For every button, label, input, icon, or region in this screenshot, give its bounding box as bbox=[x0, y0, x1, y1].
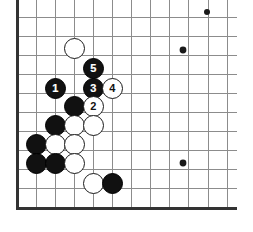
stone-white[interactable] bbox=[45, 134, 66, 155]
stone-white-move-2[interactable]: 2 bbox=[83, 96, 104, 117]
stone-white[interactable] bbox=[64, 38, 85, 59]
star-point bbox=[204, 9, 210, 15]
stone-black-move-1[interactable]: 1 bbox=[45, 78, 66, 99]
go-board-diagram: 51342 bbox=[0, 0, 253, 232]
stone-white[interactable] bbox=[83, 173, 104, 194]
stone-black[interactable] bbox=[45, 115, 66, 136]
stone-move-number: 3 bbox=[90, 82, 96, 93]
stone-white[interactable] bbox=[64, 115, 85, 136]
stone-black-move-5[interactable]: 5 bbox=[83, 58, 104, 79]
stone-black[interactable] bbox=[64, 96, 85, 117]
goban-grid bbox=[0, 0, 253, 232]
stone-black[interactable] bbox=[102, 173, 123, 194]
star-point bbox=[180, 47, 187, 54]
stone-black[interactable] bbox=[26, 153, 47, 174]
stone-move-number: 5 bbox=[90, 62, 96, 73]
stone-black[interactable] bbox=[45, 153, 66, 174]
stone-move-number: 1 bbox=[52, 82, 58, 93]
stone-move-number: 4 bbox=[109, 82, 115, 93]
stone-white[interactable] bbox=[64, 134, 85, 155]
stone-white[interactable] bbox=[83, 115, 104, 136]
stone-white[interactable] bbox=[64, 153, 85, 174]
stone-white-move-4[interactable]: 4 bbox=[102, 78, 123, 99]
star-point bbox=[180, 160, 187, 167]
stone-black[interactable] bbox=[26, 134, 47, 155]
stone-move-number: 2 bbox=[90, 100, 96, 111]
